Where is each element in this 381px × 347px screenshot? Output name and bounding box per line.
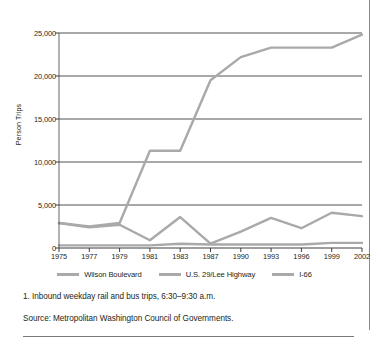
x-tick-label: 2002 [354,252,370,261]
x-tick-label: 1975 [51,252,67,261]
legend-item: U.S. 29/Lee Highway [159,270,255,279]
legend-label: U.S. 29/Lee Highway [186,270,255,279]
x-tick-label: 1999 [324,252,340,261]
x-tick-label: 1981 [142,252,158,261]
plot-area: Person Trips 05,00010,00015,00020,00025,… [0,0,369,268]
chart-notes: 1. Inbound weekday rail and bus trips, 6… [23,292,353,323]
bottom-rule [23,336,354,337]
source-text: Source: Metropolitan Washington Council … [23,314,353,323]
x-tick-label: 1983 [172,252,188,261]
legend-item: Wilson Boulevard [57,270,142,279]
x-tick-label: 1979 [112,252,128,261]
x-tick-label: 1996 [293,252,309,261]
series-line [59,213,362,244]
series-lines-group [59,35,362,246]
legend-line-swatch [57,273,79,276]
chart-canvas [0,0,369,268]
legend-item: I-66 [272,270,312,279]
x-axis-tick-labels: 1975197719791981198319871990199319961999… [0,252,369,266]
x-tick-label: 1977 [81,252,97,261]
legend-line-swatch [159,273,181,276]
legend-label: I-66 [299,270,312,279]
page-right-rule [369,0,370,330]
series-line [59,35,362,227]
x-tick-label: 1987 [202,252,218,261]
gridlines-group [55,33,362,248]
legend-label: Wilson Boulevard [84,270,142,279]
x-tick-label: 1993 [263,252,279,261]
footnote-text: 1. Inbound weekday rail and bus trips, 6… [23,292,353,301]
legend-line-swatch [272,273,294,276]
chart-legend: Wilson BoulevardU.S. 29/Lee HighwayI-66 [0,270,369,279]
figure-line-chart-person-trips: Person Trips 05,00010,00015,00020,00025,… [0,0,381,347]
x-tick-label: 1990 [233,252,249,261]
